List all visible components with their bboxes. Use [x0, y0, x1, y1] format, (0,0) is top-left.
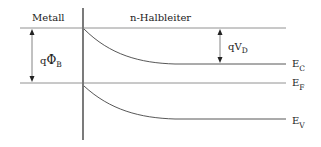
semiconductor-label: n-Halbleiter	[130, 12, 191, 23]
barrier-height-arrow	[30, 29, 35, 82]
metal-label: Metall	[32, 12, 65, 23]
diffusion-voltage-label: qVD	[228, 41, 248, 55]
band-diagram: Metall n-Halbleiter qΦB qVD EC EF EV	[0, 0, 321, 147]
conduction-band-curve	[84, 29, 286, 64]
valence-band-label: EV	[292, 115, 305, 130]
valence-band-curve	[84, 86, 286, 119]
diffusion-voltage-arrow	[218, 29, 223, 63]
conduction-band-label: EC	[292, 58, 305, 73]
fermi-level-label: EF	[292, 77, 305, 92]
barrier-height-label: qΦB	[40, 53, 62, 69]
